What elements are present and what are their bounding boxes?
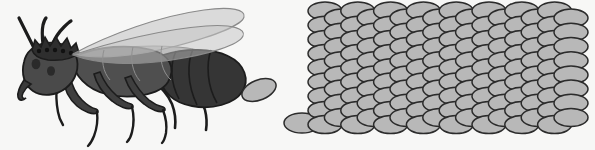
crown-bump-3 <box>53 48 57 52</box>
crown-bump-5 <box>69 51 73 55</box>
egg-grid <box>308 2 588 134</box>
crown-bump-1 <box>37 49 41 53</box>
eye-upper <box>32 59 41 69</box>
crown-bump-4 <box>61 49 65 53</box>
egg-cluster-group <box>284 2 588 134</box>
insect-egg-illustration <box>0 0 595 150</box>
crown-bump-2 <box>45 48 49 52</box>
illustration-canvas: Egg-laying winged insect with egg mass <box>0 0 595 150</box>
eye-lower <box>47 66 55 76</box>
egg <box>554 109 588 127</box>
